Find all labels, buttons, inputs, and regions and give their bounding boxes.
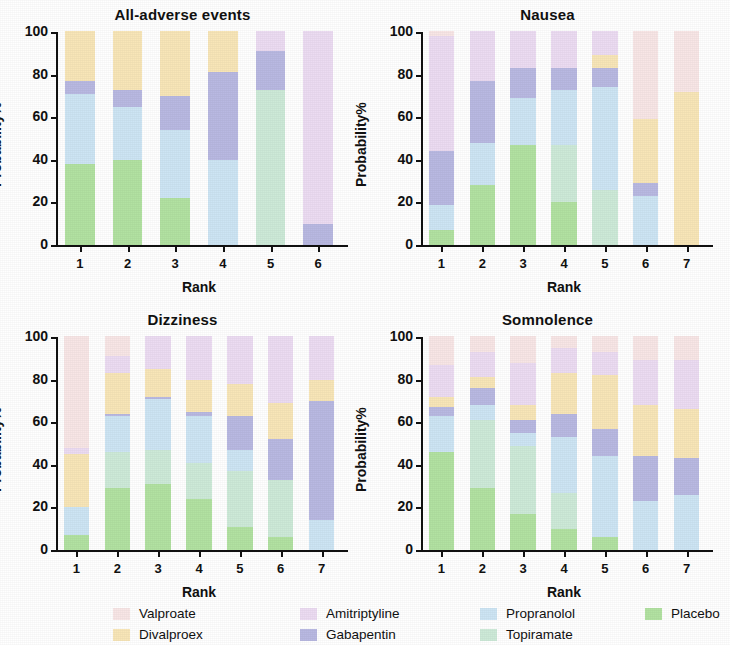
x-axis-tick-label: 6 — [261, 561, 301, 576]
bar-segment — [268, 336, 293, 403]
panel-nausea: Nausea 020406080100Probability%1234567Ra… — [365, 0, 730, 305]
bar-segment — [470, 142, 495, 185]
y-axis-tick-label: 0 — [6, 541, 48, 557]
bar-segment — [309, 336, 334, 379]
legend-swatch — [113, 608, 130, 620]
bar-segment — [429, 230, 454, 246]
bar-segment — [268, 537, 293, 550]
bar-segment — [227, 449, 252, 471]
y-axis-tick — [51, 507, 56, 509]
x-axis-tick-label: 6 — [298, 256, 338, 271]
legend-swatch — [480, 629, 497, 641]
bar-segment — [105, 356, 130, 374]
legend-swatch — [480, 608, 497, 620]
bar-segment — [470, 388, 495, 406]
panel-somnolence: Somnolence 020406080100Probability%12345… — [365, 305, 730, 600]
bar-segment — [633, 336, 658, 360]
bar-segment — [551, 68, 576, 90]
x-axis-tick — [646, 247, 648, 252]
bar-segment — [510, 144, 535, 245]
bar-segment — [145, 368, 170, 396]
bar-segment — [309, 379, 334, 401]
bar-segment — [551, 347, 576, 373]
bar-segment — [429, 407, 454, 416]
bar-segment — [633, 119, 658, 184]
y-axis-tick — [416, 507, 421, 509]
bar-segment — [429, 364, 454, 397]
bar-segment — [592, 351, 617, 375]
bar-segment — [105, 488, 130, 550]
x-axis-tick-label: 2 — [97, 561, 137, 576]
legend-item: Amitriptyline — [300, 604, 400, 623]
x-axis-tick-label: 3 — [503, 561, 543, 576]
x-axis-tick — [482, 552, 484, 557]
x-axis-tick — [281, 552, 283, 557]
legend-swatch — [300, 629, 317, 641]
x-axis-tick-label: 1 — [421, 256, 461, 271]
legend-item: Propranolol — [480, 604, 575, 623]
x-axis-label: Rank — [56, 584, 342, 600]
stacked-bar — [470, 337, 495, 550]
legend-swatch — [645, 608, 662, 620]
bar-segment — [186, 336, 211, 379]
bar-segment — [510, 419, 535, 432]
legend-label: Divalproex — [139, 627, 203, 642]
y-axis-tick — [416, 245, 421, 247]
bar-segment — [64, 447, 89, 454]
bar-segment — [145, 336, 170, 369]
bar-segment — [551, 373, 576, 414]
x-axis-label: Rank — [421, 584, 707, 600]
bar-segment — [551, 144, 576, 202]
x-axis-tick-label: 7 — [667, 256, 707, 271]
x-axis — [56, 245, 348, 247]
stacked-bar — [268, 337, 293, 550]
y-axis — [56, 32, 58, 246]
bar-segment — [256, 51, 286, 90]
bar-segment — [105, 336, 130, 356]
plot-area: 020406080100Probability%123456Rank — [56, 32, 342, 245]
legend-label: Gabapentin — [326, 627, 396, 642]
bar-segment — [303, 223, 333, 245]
y-axis-tick-label: 40 — [371, 151, 413, 167]
y-axis — [421, 32, 423, 246]
bar-segment — [592, 375, 617, 429]
stacked-bar — [470, 32, 495, 245]
bar-segment — [470, 185, 495, 245]
bar-segment — [208, 72, 238, 160]
y-axis-tick — [51, 245, 56, 247]
y-axis-tick-label: 80 — [6, 371, 48, 387]
bar-segment — [256, 31, 286, 51]
y-axis-tick-label: 60 — [6, 108, 48, 124]
x-axis-tick-label: 4 — [544, 256, 584, 271]
bar-segment — [227, 336, 252, 383]
bar-segment — [429, 396, 454, 407]
bar-segment — [65, 31, 95, 81]
bar-segment — [309, 520, 334, 550]
y-axis-tick — [51, 117, 56, 119]
stacked-bar — [592, 337, 617, 550]
bar-segment — [510, 336, 535, 362]
y-axis-label: Probability% — [0, 407, 4, 492]
bar-segment — [551, 31, 576, 68]
bar-segment — [113, 106, 143, 160]
bar-segment — [64, 535, 89, 551]
bar-segment — [429, 415, 454, 452]
x-axis-tick — [199, 552, 201, 557]
y-axis-tick — [51, 337, 56, 339]
y-axis — [56, 337, 58, 551]
bar-segment — [592, 428, 617, 456]
y-axis-tick-label: 100 — [371, 328, 413, 344]
bar-segment — [470, 419, 495, 488]
bar-segment — [592, 87, 617, 190]
y-axis-tick-label: 0 — [371, 541, 413, 557]
y-axis-tick-label: 60 — [6, 413, 48, 429]
bar-segment — [64, 454, 89, 508]
stacked-bar — [592, 32, 617, 245]
x-axis-tick-label: 3 — [138, 561, 178, 576]
bar-segment — [113, 89, 143, 107]
y-axis-tick-label: 100 — [6, 23, 48, 39]
y-axis-label: Probability% — [353, 102, 369, 187]
y-axis-tick-label: 0 — [371, 236, 413, 252]
x-axis-tick-label: 6 — [626, 256, 666, 271]
bar-segment — [633, 405, 658, 457]
